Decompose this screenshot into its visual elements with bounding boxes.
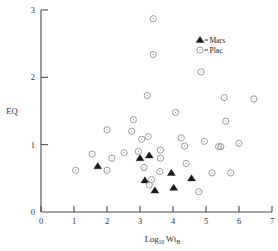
legend-marker-mars (196, 36, 204, 42)
x-tick-label: 1 (72, 216, 76, 226)
data-point-plac-center (200, 71, 201, 72)
x-tick-label: 5 (204, 216, 208, 226)
y-tick-label: 3 (31, 5, 35, 15)
data-point-plac-center (175, 112, 176, 113)
data-point-plac-center (220, 146, 221, 147)
x-tick-label: 7 (270, 216, 274, 226)
data-point-mars (94, 163, 102, 169)
data-point-plac-center (138, 151, 139, 152)
data-point-plac-center (230, 172, 231, 173)
data-point-plac-center (186, 163, 187, 164)
data-point-plac-center (75, 170, 76, 171)
y-tick-label: 0 (31, 207, 35, 217)
data-point-plac-center (181, 137, 182, 138)
data-point-plac-center (92, 153, 93, 154)
y-tick-label: 2 (31, 72, 35, 82)
data-point-plac-center (147, 95, 148, 96)
x-tick-label: 6 (237, 216, 241, 226)
data-point-plac-center (211, 172, 212, 173)
data-point-plac-center (238, 143, 239, 144)
x-tick-label: 2 (105, 216, 109, 226)
data-point-plac-center (131, 131, 132, 132)
data-point-plac-center (153, 18, 154, 19)
data-point-plac-center (111, 157, 112, 158)
data-point-mars (167, 169, 175, 175)
data-point-plac-center (225, 120, 226, 121)
data-point-mars (151, 187, 159, 193)
data-point-plac-center (141, 139, 142, 140)
data-point-plac-center (151, 179, 152, 180)
data-point-plac-center (204, 141, 205, 142)
data-point-mars (136, 155, 144, 161)
data-point-mars (187, 175, 195, 181)
data-point-plac-center (224, 97, 225, 98)
data-point-plac-center (106, 170, 107, 171)
scatter-plot-canvas: 012345670123EQLog10 WtBMarsPlac (0, 0, 278, 251)
y-axis-title: EQ (6, 106, 17, 116)
legend-label-mars: Mars (210, 36, 226, 45)
data-point-plac-center (159, 171, 160, 172)
data-point-plac-center (184, 145, 185, 146)
data-point-plac-center (133, 119, 134, 120)
data-point-plac-center (160, 149, 161, 150)
data-point-plac-center (153, 54, 154, 55)
data-point-plac-center (143, 167, 144, 168)
data-point-mars (145, 152, 153, 158)
y-tick-label: 1 (31, 140, 35, 150)
data-point-plac-center (253, 98, 254, 99)
x-axis-title: Log10 WtB (145, 234, 181, 245)
x-tick-label: 3 (138, 216, 142, 226)
legend-label-plac: Plac (210, 46, 224, 55)
data-point-mars (170, 184, 178, 190)
data-point-plac-center (106, 129, 107, 130)
legend-marker-plac-center (199, 49, 200, 50)
scatter-chart-figure: 012345670123EQLog10 WtBMarsPlac (0, 0, 278, 251)
x-tick-label: 4 (171, 216, 176, 226)
data-point-plac-center (198, 191, 199, 192)
x-tick-label: 0 (39, 216, 43, 226)
data-point-plac-center (149, 184, 150, 185)
data-point-plac-center (148, 136, 149, 137)
data-point-plac-center (160, 157, 161, 158)
data-point-plac-center (124, 152, 125, 153)
